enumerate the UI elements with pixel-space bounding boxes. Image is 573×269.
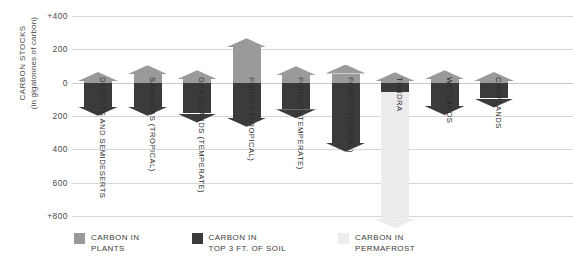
- bar-segment-plants: [282, 75, 310, 83]
- bar-group: GRASSLANDS (TEMPERATE): [183, 0, 211, 225]
- y-axis-tick-label: +800: [8, 211, 68, 221]
- bar-group: FOREST (TEMPERATE): [282, 0, 310, 225]
- bar-cap-top-arrow-icon: [326, 65, 366, 74]
- bar-segment-soil: [381, 83, 409, 92]
- legend-label: CARBON INPLANTS: [91, 232, 140, 254]
- y-axis-tick-label: 0: [8, 78, 68, 88]
- bar-segment-permafrost: [381, 92, 409, 220]
- bar-group: CROPLANDS: [480, 0, 508, 225]
- y-axis-tick-label: 600: [8, 178, 68, 188]
- bar-cap-top-arrow-icon: [128, 65, 168, 74]
- legend-swatch-permafrost: [338, 233, 349, 244]
- legend-item[interactable]: CARBON INPERMAFROST: [338, 232, 415, 254]
- bar-cap-top-arrow-icon: [227, 38, 267, 47]
- legend-item[interactable]: CARBON INPLANTS: [74, 232, 140, 254]
- bar-group: DESERTS AND SEMIDESERTS: [84, 0, 112, 225]
- bar-segment-plants: [233, 47, 261, 82]
- bar-group: WETLANDS: [431, 0, 459, 225]
- bar-segment-soil: [332, 83, 360, 143]
- plot-area: +4002000200400600+800DESERTS AND SEMIDES…: [72, 0, 573, 225]
- legend-item[interactable]: CARBON INTOP 3 FT. OF SOIL: [192, 232, 287, 254]
- bar-segment-soil: [480, 83, 508, 99]
- y-axis-title-line1: CARBON STOCKS: [17, 0, 28, 153]
- bar-cap-bottom-arrow-icon: [177, 114, 217, 123]
- chart-legend: CARBON INPLANTSCARBON INTOP 3 FT. OF SOI…: [74, 232, 467, 254]
- y-axis-title-line2: (in gigatonnes of carbon): [28, 0, 39, 153]
- bar-segment-soil: [84, 83, 112, 107]
- bar-segment-plants: [134, 74, 162, 82]
- y-axis-tick-label: 200: [8, 44, 68, 54]
- bar-cap-bottom-arrow-icon: [227, 118, 267, 127]
- bar-group: FOREST (TROPICAL): [233, 0, 261, 225]
- bar-cap-top-arrow-icon: [177, 70, 217, 79]
- legend-swatch-soil: [192, 233, 203, 244]
- bar-segment-soil: [233, 83, 261, 118]
- bar-cap-top-arrow-icon: [425, 70, 465, 79]
- bar-segment-soil: [134, 83, 162, 107]
- bar-segment-plants: [332, 74, 360, 83]
- bar-cap-top-arrow-icon: [78, 72, 118, 81]
- bar-cap-bottom-arrow-icon: [375, 219, 415, 228]
- bar-cap-top-arrow-icon: [276, 66, 316, 75]
- legend-label: CARBON INTOP 3 FT. OF SOIL: [209, 232, 287, 254]
- bar-segment-soil: [431, 83, 459, 106]
- bar-cap-top-arrow-icon: [474, 72, 514, 81]
- bar-cap-top-arrow-icon: [375, 72, 415, 81]
- bar-cap-bottom-arrow-icon: [128, 107, 168, 116]
- y-axis-tick-label: +400: [8, 11, 68, 21]
- y-axis-title: CARBON STOCKS (in gigatonnes of carbon): [17, 0, 39, 153]
- y-axis-tick-label: 400: [8, 144, 68, 154]
- bar-group: TUNDRA: [381, 0, 409, 225]
- bar-cap-bottom-arrow-icon: [78, 107, 118, 116]
- bar-segment-soil: [183, 83, 211, 114]
- bar-cap-bottom-arrow-icon: [474, 99, 514, 108]
- legend-label: CARBON INPERMAFROST: [355, 232, 415, 254]
- bar-cap-bottom-arrow-icon: [425, 106, 465, 115]
- y-axis-tick-label: 200: [8, 111, 68, 121]
- bar-group: SAVANNAS (TROPICAL): [134, 0, 162, 225]
- bar-segment-soil: [282, 83, 310, 110]
- bar-group: FOREST (BOREAL): [332, 0, 360, 225]
- legend-swatch-plants: [74, 233, 85, 244]
- carbon-stocks-chart: CARBON STOCKS (in gigatonnes of carbon) …: [0, 0, 573, 269]
